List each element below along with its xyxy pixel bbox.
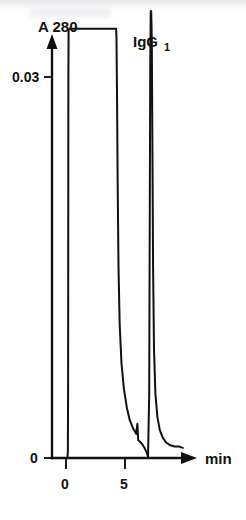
peak-label-igg-subscript: 1 [164, 41, 170, 53]
y-axis-arrow-icon [47, 34, 58, 49]
y-tick-lower-label: 0 [30, 450, 38, 466]
chromatogram-plot: A 280 min 0.03 0 0 5 IgG 1 [0, 0, 246, 520]
chromatogram-figure: A 280 min 0.03 0 0 5 IgG 1 [0, 0, 246, 520]
y-tick-upper-label: 0.03 [12, 69, 39, 85]
x-tick-first-label: 0 [61, 476, 69, 492]
y-axis-title: A 280 [38, 18, 77, 35]
peak-label-igg: IgG [133, 33, 158, 50]
absorbance-trace [64, 11, 183, 458]
x-axis-title: min [205, 450, 232, 467]
x-axis-arrow-icon [181, 452, 197, 464]
x-tick-second-label: 5 [120, 476, 128, 492]
